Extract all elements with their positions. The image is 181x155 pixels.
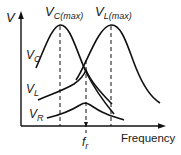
vc-max-label: VC(max) xyxy=(45,4,83,21)
vl-curve-label: VL xyxy=(26,82,39,98)
fr-label: fr xyxy=(82,135,89,151)
y-axis-arrow-icon xyxy=(18,11,24,19)
vl-curve xyxy=(76,25,160,103)
resonance-diagram: V VC(max) VL(max) VC VL VR Frequency fr xyxy=(0,0,181,155)
x-axis-arrow-icon xyxy=(158,123,166,129)
vl-lower-curve xyxy=(38,70,112,104)
y-axis-label: V xyxy=(6,10,16,25)
vc-curve xyxy=(36,25,114,114)
vr-curve-label: VR xyxy=(29,107,44,123)
x-axis-label: Frequency xyxy=(121,132,176,144)
vc-curve-label: VC xyxy=(26,48,41,64)
vl-max-label: VL(max) xyxy=(95,4,132,21)
